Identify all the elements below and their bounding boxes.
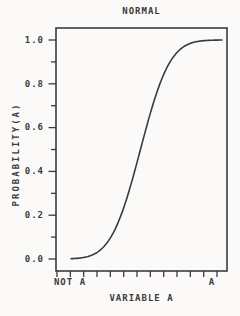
plot-canvas [0,0,240,316]
normal-cdf-figure: NORMAL PROBABILITY(A) 1.0 0.8 0.6 0.4 0.… [0,0,240,316]
normal-cdf-curve [71,40,222,259]
x-axis-ticks [57,271,217,277]
plot-frame [56,28,227,271]
y-axis-ticks [49,40,57,259]
